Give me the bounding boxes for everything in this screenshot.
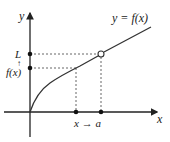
dot-L-on-y-axis <box>28 52 33 57</box>
dot-fx-on-y-axis <box>28 66 33 71</box>
limit-diagram: y x y = f(x) L ↑ f(x) x → a <box>0 0 170 142</box>
curve-label: y = f(x) <box>111 11 148 25</box>
open-point-a-L <box>98 51 104 57</box>
x-axis-label: x <box>156 112 163 126</box>
dot-x-on-x-axis <box>74 110 79 115</box>
fx-label: f(x) <box>6 66 22 79</box>
function-curve <box>30 27 151 112</box>
y-axis-label: y <box>18 9 25 23</box>
dot-a-on-x-axis <box>99 110 104 115</box>
approach-label: x → a <box>73 117 101 129</box>
